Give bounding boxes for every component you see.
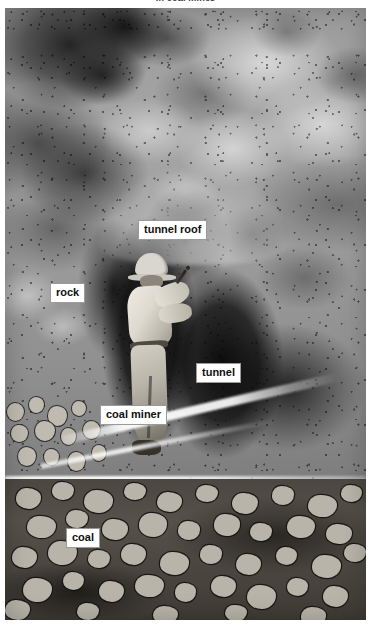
figure-caption: in coal mines <box>0 0 371 3</box>
page-root: in coal mines <box>0 0 371 638</box>
coal-rubble-field <box>5 479 366 620</box>
callout-label-coal: coal <box>66 528 100 548</box>
callout-label-tunnel-roof: tunnel roof <box>138 220 207 240</box>
pickaxe-handle <box>176 269 187 284</box>
pickaxe-head <box>185 265 190 270</box>
caption-clip: in coal mines <box>0 0 371 5</box>
callout-label-coal-miner: coal miner <box>100 405 167 425</box>
coal-mine-illustration <box>5 8 366 620</box>
callout-label-rock: rock <box>50 283 85 303</box>
left-rubble-ledge <box>5 394 113 486</box>
callout-label-tunnel: tunnel <box>196 363 241 383</box>
